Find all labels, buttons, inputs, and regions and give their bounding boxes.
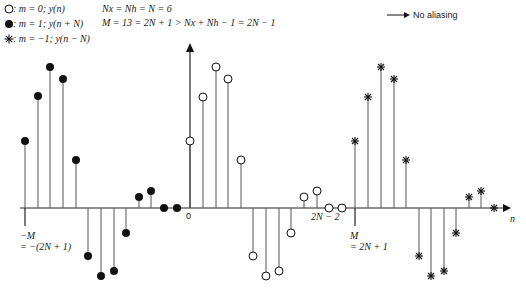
filled-circle-marker-icon	[72, 156, 80, 164]
filled-circle-marker-icon	[122, 229, 130, 237]
filled-circle-marker-icon	[21, 137, 29, 145]
y-axis-arrow-icon	[186, 43, 194, 52]
open-circle-marker-icon	[249, 252, 257, 260]
x-axis-arrow-icon	[503, 204, 511, 212]
open-circle-marker-icon	[300, 193, 308, 201]
filled-circle-marker-icon	[135, 193, 143, 201]
legend-item-m0: : m = 0; y(n)	[13, 3, 65, 14]
filled-circle-marker-icon	[173, 204, 181, 212]
asterisk-marker-icon	[490, 204, 498, 212]
legend-item-m1: : m = 1; y(n + N)	[13, 18, 83, 29]
filled-circle-marker-icon	[34, 92, 42, 100]
filled-circle-marker-icon	[97, 272, 105, 280]
asterisk-marker-icon	[465, 193, 473, 201]
asterisk-marker-icon	[477, 187, 485, 195]
n-axis-label: n	[510, 213, 515, 224]
two-n-minus-2-label: 2N − 2	[311, 211, 339, 222]
filled-circle-marker-icon	[160, 204, 168, 212]
open-circle-marker-icon	[313, 187, 321, 195]
filled-circle-marker-icon	[59, 75, 67, 83]
neg-m-label: −M	[20, 230, 35, 241]
open-circle-marker-icon	[199, 93, 207, 101]
no-aliasing-label: No aliasing	[413, 10, 458, 21]
open-circle-marker-icon	[287, 229, 295, 237]
open-circle-marker-icon	[224, 75, 232, 83]
open-circle-marker-icon	[237, 156, 245, 164]
asterisk-marker-icon	[390, 75, 398, 83]
equation-line-1: Nx = Nh = N = 6	[102, 3, 172, 14]
asterisk-marker-icon	[440, 267, 448, 275]
asterisk-marker-icon	[427, 272, 435, 280]
filled-circle-marker-icon	[84, 252, 92, 260]
m-label: M	[350, 230, 358, 241]
open-circle-marker-icon	[275, 267, 283, 275]
filled-circle-marker-icon	[110, 267, 118, 275]
neg-m-formula: = −(2N + 1)	[20, 241, 71, 252]
asterisk-marker-icon	[402, 156, 410, 164]
stem-plot	[0, 0, 526, 296]
filled-circle-marker-icon	[147, 187, 155, 195]
asterisk-marker-icon	[452, 229, 460, 237]
open-circle-marker-icon	[262, 272, 270, 280]
asterisk-marker-icon	[351, 137, 359, 145]
legend-item-m-neg1: : m = −1; y(n − N)	[13, 33, 90, 44]
m-formula: = 2N + 1	[350, 241, 388, 252]
open-circle-marker-icon	[186, 137, 194, 145]
right-arrow-icon	[404, 12, 410, 18]
filled-circle-marker-icon	[46, 63, 54, 71]
origin-label: 0	[186, 211, 191, 222]
asterisk-marker-icon	[364, 93, 372, 101]
open-circle-marker-icon	[212, 63, 220, 71]
equation-line-2: M = 13 = 2N + 1 > Nx + Nh − 1 = 2N − 1	[102, 17, 275, 28]
asterisk-marker-icon	[415, 252, 423, 260]
asterisk-marker-icon	[377, 63, 385, 71]
